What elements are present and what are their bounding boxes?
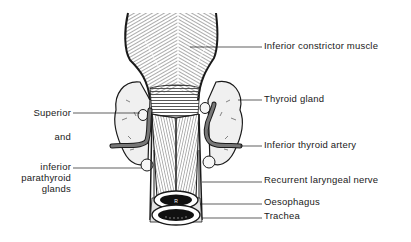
trachea-ring [152,205,200,225]
label-inferior: inferior [40,161,71,172]
thyroid-gland-left-lobe [115,82,150,165]
thyroid-gland-right-lobe [208,81,242,164]
label-superior: Superior [33,107,71,118]
label-oesophagus: Oesophagus [264,196,320,207]
label-and: and [55,131,71,142]
label-parathyroid: parathyroid [21,172,71,183]
label-inferior-thyroid-artery: Inferior thyroid artery [264,139,356,150]
label-trachea: Trachea [264,210,300,221]
label-inferior-constrictor-muscle: Inferior constrictor muscle [264,40,378,51]
cricopharyngeus-band [150,85,200,117]
label-glands: glands [42,183,71,194]
diagram-canvas: R [0,0,411,242]
label-thyroid-gland: Thyroid gland [264,93,324,104]
label-recurrent-laryngeal-nerve: Recurrent laryngeal nerve [264,174,378,185]
svg-text:R: R [174,198,178,204]
